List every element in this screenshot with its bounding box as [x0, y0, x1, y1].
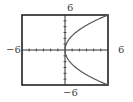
x-min-label: −6 [6, 45, 21, 55]
y-max-label: 6 [67, 3, 73, 13]
y-min-label: −6 [63, 88, 78, 98]
x-max-label: 6 [118, 45, 124, 55]
